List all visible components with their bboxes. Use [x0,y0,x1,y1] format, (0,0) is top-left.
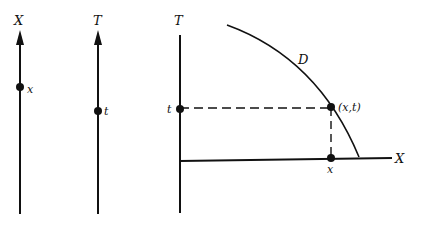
t-axis-label: T [93,13,103,28]
point-x-label: x [327,163,334,176]
x-axis-label: X [13,13,24,28]
curve-d-label: D [297,52,309,67]
arrowhead-icon [16,30,24,45]
arrowhead-icon [94,30,102,45]
point-t-label: t [104,105,109,118]
t-axis-label: T [174,13,184,28]
point-x-label: x [27,83,34,96]
x-axis-label: X [394,151,405,166]
diagram: X x T t T X D t (x,t) x [0,0,421,229]
point-t-label: t [167,103,172,116]
xt-plane-panel: T X D t (x,t) x [167,13,405,213]
point-xt-label: (x,t) [338,101,361,114]
point-x [16,83,24,91]
point-t [176,105,184,113]
point-t [94,107,102,115]
point-x [327,154,335,162]
point-xt [327,103,335,111]
t-axis-line-panel: T t [93,13,109,214]
x-axis-line-panel: X x [13,13,34,214]
curve-d [227,25,359,157]
x-axis [180,158,392,161]
